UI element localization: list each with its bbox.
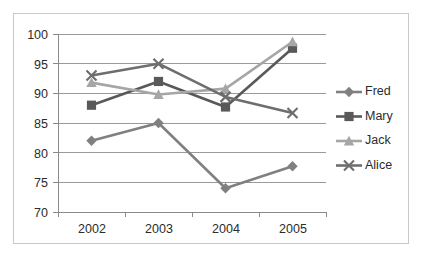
- x-tick-label-2004: 2004: [212, 222, 240, 236]
- legend-item-alice[interactable]: Alice: [336, 158, 392, 172]
- data-point-mary-2004: [221, 102, 230, 111]
- data-point-fred-2002: [86, 136, 96, 146]
- data-point-mary-2002: [87, 101, 96, 110]
- legend-marker-fred: [344, 87, 354, 97]
- series-line-mary: [92, 48, 293, 107]
- chart-legend: FredMaryJackAlice: [336, 84, 394, 172]
- x-tick-label-2003: 2003: [145, 222, 173, 236]
- page-top-artifact: [0, 0, 424, 12]
- x-tick-label-2005: 2005: [279, 222, 307, 236]
- legend-label-jack: Jack: [365, 133, 391, 147]
- y-tick-label-75: 75: [34, 176, 48, 190]
- legend-label-mary: Mary: [365, 109, 394, 123]
- x-tick-marks: [58, 212, 326, 217]
- legend-label-fred: Fred: [365, 84, 391, 98]
- y-tick-marks: [53, 34, 58, 212]
- gridlines: [58, 34, 326, 182]
- line-chart: 100 95 90 85 80 75 70 2002 2003 2004 200…: [14, 14, 408, 243]
- series-line-jack: [92, 42, 293, 95]
- y-tick-label-80: 80: [34, 147, 48, 161]
- chart-frame: 100 95 90 85 80 75 70 2002 2003 2004 200…: [13, 13, 409, 244]
- x-tick-label-2002: 2002: [78, 222, 106, 236]
- data-point-fred-2005: [287, 161, 297, 171]
- y-tick-label-70: 70: [34, 206, 48, 220]
- legend-item-jack[interactable]: Jack: [336, 133, 391, 147]
- series-layer: [86, 37, 297, 194]
- data-point-jack-2005: [287, 37, 297, 47]
- series-mary: [87, 44, 297, 112]
- legend-label-alice: Alice: [365, 158, 392, 172]
- y-tick-label-100: 100: [27, 28, 48, 42]
- y-tick-label-85: 85: [34, 117, 48, 131]
- legend-item-mary[interactable]: Mary: [336, 109, 394, 123]
- data-point-mary-2003: [154, 77, 163, 86]
- series-jack: [86, 37, 297, 99]
- y-tick-label-95: 95: [34, 58, 48, 72]
- series-line-fred: [92, 123, 293, 188]
- legend-item-fred[interactable]: Fred: [336, 84, 391, 98]
- y-tick-label-90: 90: [34, 87, 48, 101]
- legend-marker-mary: [344, 112, 353, 121]
